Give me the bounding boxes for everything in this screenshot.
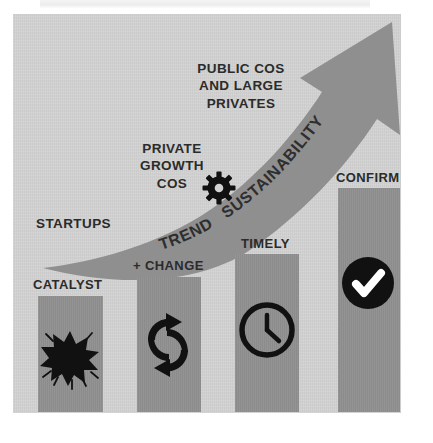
refresh-sync-arrows-icon: [148, 313, 188, 377]
clock-icon: [242, 305, 292, 355]
bar-icon-layer: [0, 0, 433, 443]
diagram-canvas: TREND SUSTAINABILITY STARTUPS PRIVATE GR: [0, 0, 433, 443]
explosion-burst-icon: [40, 331, 99, 389]
check-circle-icon: [342, 257, 394, 309]
